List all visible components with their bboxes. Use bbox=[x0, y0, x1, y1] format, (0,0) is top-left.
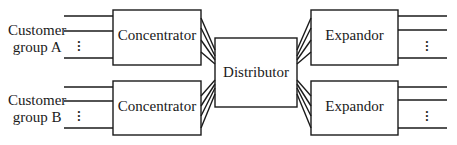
expandor-top-label: Expandor bbox=[311, 27, 398, 44]
expandor-bottom-label: Expandor bbox=[311, 98, 398, 115]
concentrator-a-label: Concentrator bbox=[113, 27, 201, 44]
fan-lines-concentrator-a bbox=[201, 18, 215, 64]
fan-lines-expandor-top bbox=[297, 18, 311, 64]
customer-group-b-label: Customer group B bbox=[8, 92, 66, 126]
concentrator-b-label: Concentrator bbox=[113, 98, 201, 115]
fan-lines-concentrator-b bbox=[201, 80, 215, 128]
ellipsis-expandor-top: ··· bbox=[424, 40, 430, 52]
ellipsis-group-b: ··· bbox=[76, 110, 82, 122]
customer-group-a-line2: group A bbox=[8, 39, 66, 56]
distributor-label: Distributor bbox=[215, 64, 297, 81]
customer-group-b-line2: group B bbox=[8, 109, 66, 126]
fan-lines-expandor-bottom bbox=[297, 80, 311, 128]
ellipsis-group-a: ··· bbox=[76, 40, 82, 52]
customer-group-a-line1: Customer bbox=[8, 22, 66, 39]
ellipsis-expandor-bottom: ··· bbox=[424, 110, 430, 122]
customer-group-a-label: Customer group A bbox=[8, 22, 66, 56]
customer-group-b-line1: Customer bbox=[8, 92, 66, 109]
